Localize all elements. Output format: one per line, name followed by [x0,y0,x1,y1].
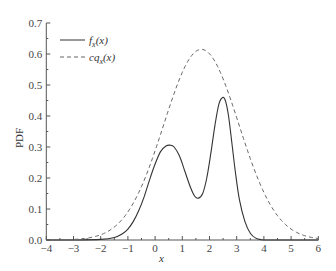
x-tick-label: 1 [180,242,186,254]
y-axis-label: PDF [13,128,25,148]
legend: fx(x) cqx(x) [60,34,115,66]
x-tick-label: −1 [122,242,134,254]
x-tick-label: 0 [152,242,158,254]
y-tick-label: 0.5 [29,79,43,91]
y-tick-label: 0.2 [29,172,43,184]
axes: −4−3−2−101234560.00.10.20.30.40.50.60.7 [29,17,322,254]
curves [46,49,318,240]
y-tick-label: 0.7 [29,17,43,29]
y-tick-label: 0.0 [29,234,43,246]
x-tick-label: 2 [207,242,213,254]
y-tick-label: 0.3 [29,141,43,153]
x-tick-label: 6 [316,242,322,254]
y-tick-label: 0.4 [29,110,43,122]
x-tick-label: −2 [95,242,107,254]
x-axis-label: x [158,252,164,264]
pdf-chart: −4−3−2−101234560.00.10.20.30.40.50.60.7 … [0,0,336,271]
y-tick-label: 0.1 [29,203,43,215]
series-fx-line [46,97,318,240]
y-tick-label: 0.6 [29,48,43,60]
series-cqx-line [46,49,318,240]
x-tick-label: 4 [261,242,267,254]
legend-label-fx: fx(x) [89,34,108,49]
x-tick-label: 5 [288,242,294,254]
x-tick-label: 3 [234,242,240,254]
legend-label-cqx: cqx(x) [89,51,115,66]
x-tick-label: −3 [68,242,80,254]
